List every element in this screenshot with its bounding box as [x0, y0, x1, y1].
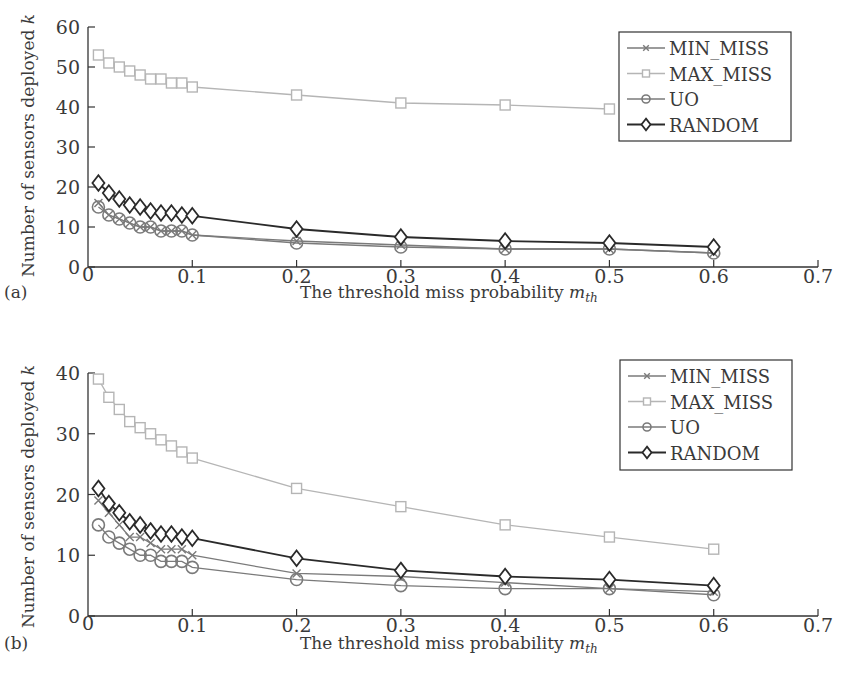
legend-label: UO	[670, 417, 700, 438]
data-point-diamond-marker	[499, 233, 511, 249]
data-point-x-marker	[115, 215, 123, 223]
x-tick-label: 0	[82, 263, 94, 285]
y-tick-label: 40	[56, 362, 80, 384]
data-point-diamond-marker	[134, 199, 146, 215]
y-tick-label: 10	[56, 216, 80, 238]
y-tick-label: 50	[56, 56, 80, 78]
data-point-square-marker	[93, 374, 103, 384]
legend-label: MAX_MISS	[669, 64, 772, 86]
data-point-square-marker	[135, 423, 145, 433]
legend-a: MIN_MISSMAX_MISSUORANDOM	[619, 32, 791, 141]
y-tick-label: 10	[56, 544, 80, 566]
data-point-square-marker	[166, 78, 176, 88]
y-tick-label: 30	[56, 136, 80, 158]
data-point-square-marker	[396, 98, 406, 108]
legend-b: MIN_MISSMAX_MISSUORANDOM	[620, 360, 792, 470]
panel-label-b: (b)	[4, 633, 28, 653]
data-point-diamond-marker	[113, 505, 125, 521]
y-tick-label: 0	[68, 256, 80, 278]
data-point-square-marker	[292, 483, 302, 493]
data-point-square-marker	[500, 100, 510, 110]
data-point-square-marker	[604, 104, 614, 114]
legend-label: RANDOM	[670, 443, 760, 464]
series-max-miss	[93, 50, 614, 114]
legend-label: MAX_MISS	[670, 392, 773, 414]
x-tick-label: 0.1	[177, 265, 207, 287]
data-point-diamond-marker	[291, 221, 303, 237]
x-tick-label: 0.7	[803, 614, 833, 636]
data-point-square-marker	[114, 62, 124, 72]
chart-panel-a: 010203040506000.10.20.30.40.50.60.7 MIN_…	[4, 14, 833, 305]
data-point-square-marker	[177, 78, 187, 88]
data-point-diamond-marker	[291, 550, 303, 566]
square-legend-icon	[643, 70, 650, 77]
data-point-x-marker	[126, 219, 134, 227]
data-point-square-marker	[93, 50, 103, 60]
data-point-square-marker	[292, 90, 302, 100]
y-tick-label: 40	[56, 96, 80, 118]
data-point-square-marker	[604, 532, 614, 542]
data-point-square-marker	[709, 544, 719, 554]
series-uo	[92, 519, 719, 601]
data-point-square-marker	[104, 392, 114, 402]
y-tick-label: 30	[56, 423, 80, 445]
x-tick-label: 0.1	[177, 614, 207, 636]
square-legend-icon	[644, 398, 651, 405]
data-point-square-marker	[500, 520, 510, 530]
data-point-square-marker	[125, 417, 135, 427]
data-point-square-marker	[177, 447, 187, 457]
y-tick-label: 60	[56, 16, 80, 38]
data-point-square-marker	[166, 441, 176, 451]
data-point-square-marker	[156, 435, 166, 445]
series-line	[98, 501, 713, 592]
data-point-diamond-marker	[145, 203, 157, 219]
data-point-diamond-marker	[165, 526, 177, 542]
x-tick-label: 0.5	[594, 265, 624, 287]
data-point-diamond-marker	[186, 208, 198, 224]
legend-label: RANDOM	[669, 115, 759, 136]
x-tick-label: 0.7	[803, 265, 833, 287]
x-axis-label-b: The threshold miss probability mth	[300, 633, 598, 656]
chart-panel-b: 01020304000.10.20.30.40.50.60.7 MIN_MISS…	[4, 360, 833, 656]
y-tick-label: 20	[56, 484, 80, 506]
data-point-square-marker	[187, 82, 197, 92]
x-tick-label: 0.5	[594, 614, 624, 636]
y-axis-label-a: Number of sensors deployed k	[18, 14, 38, 277]
x-tick-label: 0.6	[699, 265, 729, 287]
data-point-square-marker	[104, 58, 114, 68]
x-tick-label: 0.6	[699, 614, 729, 636]
data-point-x-marker	[94, 199, 102, 207]
data-point-diamond-marker	[176, 529, 188, 545]
data-point-diamond-marker	[165, 205, 177, 221]
data-point-x-marker	[115, 521, 123, 529]
data-point-x-marker	[147, 539, 155, 547]
data-point-x-marker	[94, 497, 102, 505]
legend-label: MIN_MISS	[670, 366, 770, 388]
data-point-x-marker	[105, 211, 113, 219]
data-point-square-marker	[146, 429, 156, 439]
y-tick-label: 0	[68, 605, 80, 627]
x-tick-label: 0	[82, 612, 94, 634]
x-axis-label-a: The threshold miss probability mth	[300, 282, 598, 305]
data-point-diamond-marker	[186, 530, 198, 546]
data-point-square-marker	[187, 453, 197, 463]
figure: 010203040506000.10.20.30.40.50.60.7 MIN_…	[0, 0, 856, 700]
series-uo	[92, 201, 719, 259]
data-point-diamond-marker	[92, 175, 104, 191]
legend-label: UO	[669, 89, 699, 110]
y-axis-label-b: Number of sensors deployed k	[18, 365, 38, 628]
data-point-square-marker	[146, 74, 156, 84]
data-point-square-marker	[125, 66, 135, 76]
data-point-square-marker	[114, 404, 124, 414]
data-point-square-marker	[396, 502, 406, 512]
data-point-square-marker	[156, 74, 166, 84]
data-point-square-marker	[135, 70, 145, 80]
y-tick-label: 20	[56, 176, 80, 198]
legend-label: MIN_MISS	[669, 38, 769, 60]
data-point-diamond-marker	[124, 514, 136, 530]
panel-label-a: (a)	[4, 282, 27, 302]
